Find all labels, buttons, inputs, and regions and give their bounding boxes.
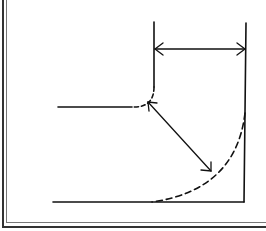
diagram-frame xyxy=(0,0,266,231)
pipe-bend-diagram xyxy=(0,0,266,231)
radius-dimension-line xyxy=(148,102,211,171)
inner-bend-dashed xyxy=(134,87,154,107)
